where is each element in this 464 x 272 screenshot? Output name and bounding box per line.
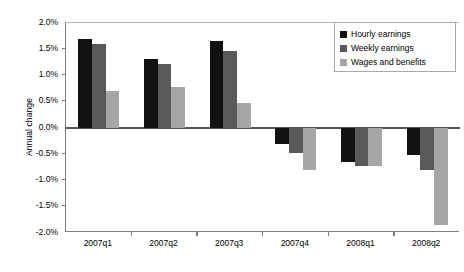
bar: [434, 128, 448, 225]
bar: [158, 64, 172, 128]
legend-item: Hourly earnings: [340, 27, 455, 41]
x-axis-tick-label: 2008q2: [393, 239, 459, 248]
bar: [223, 51, 237, 128]
x-axis-tick-label: 2008q1: [328, 239, 394, 248]
y-axis-tick-label: -0.5%: [6, 149, 58, 158]
bar: [210, 41, 224, 128]
bar: [106, 91, 120, 128]
legend-label: Weekly earnings: [351, 44, 414, 53]
legend-swatch-icon: [340, 59, 347, 66]
y-axis-tick-label: 2.0%: [6, 18, 58, 27]
bar: [144, 59, 158, 128]
y-axis-tick-label: 0.0%: [6, 123, 58, 132]
y-axis-tick-label: 1.5%: [6, 44, 58, 53]
legend-swatch-icon: [340, 31, 347, 38]
legend-label: Wages and benefits: [351, 58, 426, 67]
legend: Hourly earnings Weekly earnings Wages an…: [334, 22, 456, 72]
bar: [407, 128, 421, 155]
y-axis-tick-label: -2.0%: [6, 228, 58, 237]
x-axis-tick-mark: [262, 232, 263, 236]
bar: [171, 87, 185, 128]
legend-label: Hourly earnings: [351, 30, 411, 39]
x-axis-tick-mark: [131, 232, 132, 236]
bar: [237, 103, 251, 128]
bar-chart: Annual change 2.0%1.5%1.0%0.5%0.0%-0.5%-…: [0, 0, 464, 272]
x-axis-tick-label: 2007q1: [65, 239, 131, 248]
bar: [92, 44, 106, 128]
legend-item: Weekly earnings: [340, 41, 455, 55]
x-axis-tick-mark: [328, 232, 329, 236]
x-axis-tick-mark: [393, 232, 394, 236]
x-axis-tick-label: 2007q2: [131, 239, 197, 248]
bar: [303, 128, 317, 170]
bar: [368, 128, 382, 166]
x-axis-tick-label: 2007q3: [196, 239, 262, 248]
x-axis-tick-label: 2007q4: [262, 239, 328, 248]
bar: [275, 128, 289, 144]
y-axis-tick-label: -1.0%: [6, 175, 58, 184]
legend-swatch-icon: [340, 45, 347, 52]
bar: [341, 128, 355, 162]
bar: [420, 128, 434, 170]
zero-baseline: [66, 127, 460, 128]
bar: [78, 39, 92, 128]
legend-item: Wages and benefits: [340, 55, 455, 69]
y-axis-tick-label: 0.5%: [6, 96, 58, 105]
x-axis-tick-mark: [196, 232, 197, 236]
bar: [355, 128, 369, 166]
y-axis-tick-label: 1.0%: [6, 70, 58, 79]
y-axis-tick-label: -1.5%: [6, 201, 58, 210]
bar: [289, 128, 303, 153]
